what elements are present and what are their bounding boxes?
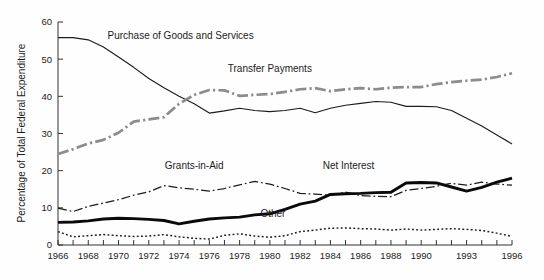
y-tick-label: 40	[41, 91, 52, 102]
line-chart-canvas: Percentage of Total Federal Expenditure …	[0, 0, 544, 280]
x-tick-label: 1966	[47, 250, 68, 261]
x-tick-label: 1986	[350, 250, 371, 261]
x-tick-label: 1974	[168, 250, 189, 261]
y-axis-ticks: 0102030405060	[41, 16, 63, 250]
series-line-4	[58, 228, 512, 239]
series-annotation-label: Purchase of Goods and Services	[107, 30, 253, 41]
x-tick-label: 1982	[290, 250, 311, 261]
y-tick-label: 0	[47, 239, 52, 250]
series-annotation-label: Grants-in-Aid	[165, 160, 224, 171]
x-tick-label: 1972	[138, 250, 159, 261]
x-tick-label: 1978	[229, 250, 250, 261]
y-tick-label: 50	[41, 54, 52, 65]
x-tick-label: 1976	[199, 250, 220, 261]
y-axis-title: Percentage of Total Federal Expenditure	[16, 43, 27, 222]
x-tick-label: 1996	[501, 250, 522, 261]
y-tick-label: 10	[41, 202, 52, 213]
series-annotation-label: Net Interest	[323, 160, 375, 171]
x-tick-label: 1984	[320, 250, 341, 261]
y-tick-label: 60	[41, 16, 52, 27]
y-tick-label: 20	[41, 165, 52, 176]
x-tick-label: 1990	[411, 250, 432, 261]
y-tick-label: 30	[41, 128, 52, 139]
x-tick-label: 1970	[108, 250, 129, 261]
series-annotation-label: Other	[260, 208, 286, 219]
series-annotation-label: Transfer Payments	[228, 63, 312, 74]
chart-figure: Percentage of Total Federal Expenditure …	[0, 0, 544, 280]
series-annotations-group: Purchase of Goods and ServicesTransfer P…	[107, 30, 374, 219]
x-tick-label: 1988	[380, 250, 401, 261]
x-tick-label: 1968	[78, 250, 99, 261]
x-axis-ticks: 1966196819701972197419761978198019821984…	[47, 240, 522, 261]
series-line-1	[58, 73, 512, 154]
x-tick-label: 1993	[456, 250, 477, 261]
x-tick-label: 1980	[259, 250, 280, 261]
